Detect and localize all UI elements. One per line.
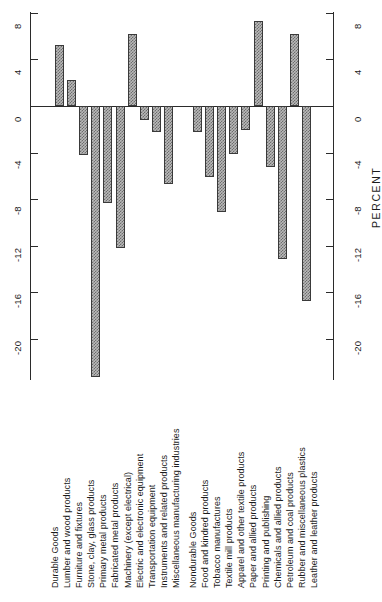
bar	[302, 106, 311, 301]
bar	[217, 106, 226, 212]
axis-tick	[326, 13, 333, 14]
bar	[91, 106, 100, 377]
bar	[55, 45, 64, 106]
category-label: Machinery (except electrical)	[123, 472, 133, 588]
category-label: Apparel and other textile products	[236, 452, 246, 588]
category-label: Nondurable Goods	[188, 512, 198, 588]
category-label: Petroleum and coal products	[285, 472, 295, 588]
y-axis-title: PERCENT	[370, 167, 382, 228]
axis-tick-label: -8	[12, 206, 23, 215]
bar	[278, 106, 287, 259]
axis-tick	[326, 153, 333, 154]
category-label: Durable Goods	[50, 527, 60, 588]
axis-tick-label: 4	[352, 70, 363, 75]
bar	[164, 106, 173, 184]
axis-tick-label: -4	[12, 160, 23, 169]
axis-tick-label: 0	[352, 117, 363, 122]
category-label: Miscellaneous manufacturing industries	[171, 429, 181, 588]
category-label: Rubber and miscellaneous plastics	[297, 447, 307, 588]
bar	[79, 106, 88, 155]
category-label: Textile mill products	[224, 508, 234, 588]
category-label: Electric and electronic equipment	[135, 454, 145, 588]
category-label: Leather and leather products	[309, 472, 319, 588]
axis-tick-label: -16	[12, 294, 23, 308]
bar	[140, 106, 149, 120]
right-axis-line	[333, 12, 334, 380]
axis-tick	[326, 106, 333, 107]
axis-tick	[326, 199, 333, 200]
axis-tick-label: 8	[12, 23, 23, 28]
axis-tick	[326, 246, 333, 247]
axis-tick-label: -8	[352, 206, 363, 215]
axis-tick	[31, 13, 38, 14]
axis-tick	[31, 106, 38, 107]
bar	[152, 106, 161, 132]
bar	[67, 80, 76, 106]
bar	[116, 106, 125, 248]
category-label: Transportation equipment	[147, 485, 157, 588]
category-label: Stone, clay, glass products	[86, 480, 96, 588]
axis-tick	[31, 199, 38, 200]
bar	[229, 106, 238, 154]
axis-tick-label: -12	[12, 247, 23, 261]
axis-tick-label: 0	[12, 117, 23, 122]
category-label: Instruments and related products	[159, 455, 169, 588]
axis-tick-label: 8	[352, 23, 363, 28]
axis-tick	[31, 153, 38, 154]
category-label: Chemicals and allied products	[273, 466, 283, 588]
axis-tick	[31, 292, 38, 293]
category-label: Lumber and wood products	[62, 478, 72, 588]
axis-tick-label: -12	[352, 247, 363, 261]
bar	[266, 106, 275, 167]
category-label: Furniture and fixtures	[74, 502, 84, 588]
zero-baseline	[30, 106, 334, 107]
axis-tick	[31, 339, 38, 340]
axis-tick-label: -20	[12, 341, 23, 355]
bar	[254, 21, 263, 106]
axis-tick	[326, 292, 333, 293]
bar	[205, 106, 214, 177]
axis-tick-label: -20	[352, 341, 363, 355]
bar	[128, 34, 137, 106]
bar	[290, 34, 299, 106]
bar	[103, 106, 112, 203]
category-label: Food and kindred products	[200, 480, 210, 588]
left-axis-line	[30, 12, 31, 380]
bar	[193, 106, 202, 132]
category-label: Printing and publishing	[261, 496, 271, 588]
axis-tick-label: -16	[352, 294, 363, 308]
category-label: Paper and allied products	[248, 485, 258, 588]
category-label: Tobacco manufactures	[212, 496, 222, 588]
axis-tick	[326, 59, 333, 60]
axis-tick	[31, 59, 38, 60]
axis-tick-label: 4	[12, 70, 23, 75]
category-label: Primary metal products	[98, 494, 108, 588]
axis-tick	[326, 339, 333, 340]
bar	[241, 106, 250, 130]
axis-tick-label: -4	[352, 160, 363, 169]
category-label: Fabricated metal products	[110, 483, 120, 588]
axis-tick	[31, 246, 38, 247]
